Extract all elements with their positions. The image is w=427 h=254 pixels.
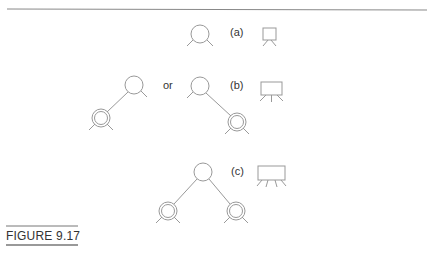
label-a: (a) xyxy=(230,26,243,38)
tree-b-left xyxy=(89,76,147,130)
figure-caption: FIGURE 9.17 xyxy=(6,229,80,243)
box-b xyxy=(260,82,283,102)
label-or: or xyxy=(163,79,173,91)
box-a xyxy=(263,28,276,46)
node-a xyxy=(187,25,213,46)
label-b: (b) xyxy=(230,79,243,91)
top-rule xyxy=(7,9,427,10)
box-c xyxy=(257,166,286,187)
figure-canvas xyxy=(0,0,427,254)
label-c: (c) xyxy=(231,165,244,177)
